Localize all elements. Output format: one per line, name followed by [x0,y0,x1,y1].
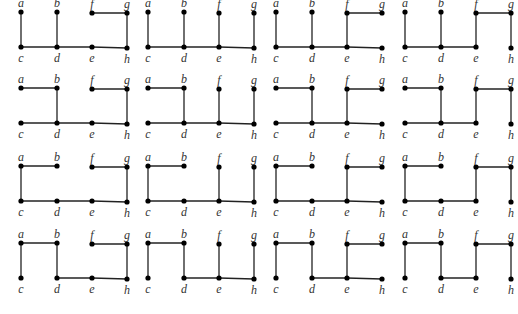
node-label-h: h [508,206,514,220]
edge-e-h [347,201,382,202]
node-c [18,198,23,203]
node-label-b: b [181,72,187,86]
node-label-d: d [438,282,445,296]
tree-panel: abcdefgh [273,0,385,66]
node-h [508,45,513,50]
node-e [89,44,94,49]
node-h [251,276,256,281]
node-a [273,240,278,245]
node-label-h: h [508,128,514,142]
node-d [54,44,59,49]
node-label-b: b [54,227,60,241]
node-label-c: c [145,51,151,65]
node-h [508,121,513,126]
node-label-h: h [251,283,257,297]
node-label-f: f [217,151,222,165]
node-label-f: f [90,228,95,242]
node-label-c: c [273,51,279,65]
edge-e-h [219,123,254,124]
node-label-b: b [54,150,60,164]
node-d [309,120,314,125]
node-label-e: e [216,205,222,219]
node-label-a: a [273,72,279,86]
node-e [216,44,221,49]
tree-panel: abcdefgh [18,72,130,142]
node-label-a: a [402,150,408,164]
edge-e-h [219,47,254,48]
node-label-g: g [251,228,257,242]
node-d [54,120,59,125]
node-e [344,198,349,203]
node-label-a: a [18,72,24,86]
node-label-e: e [473,127,479,141]
node-b [309,9,314,14]
node-e [344,44,349,49]
node-a [145,85,150,90]
node-c [18,275,23,280]
node-label-e: e [473,282,479,296]
node-d [309,275,314,280]
node-label-f: f [474,0,479,11]
node-label-f: f [90,0,95,11]
node-f [344,164,349,169]
node-d [309,198,314,203]
node-h [124,45,129,50]
node-label-b: b [438,227,444,241]
node-label-c: c [145,127,151,141]
node-label-c: c [402,127,408,141]
node-b [54,240,59,245]
node-b [438,163,443,168]
node-e [216,120,221,125]
edge-e-h [92,278,127,279]
node-c [273,120,278,125]
node-label-c: c [402,282,408,296]
node-f [344,86,349,91]
node-e [89,120,94,125]
node-label-d: d [438,127,445,141]
node-label-f: f [345,0,350,11]
node-g [251,10,256,15]
node-label-h: h [379,52,385,66]
node-label-b: b [181,0,187,10]
node-f [216,164,221,169]
node-a [402,85,407,90]
node-label-h: h [124,52,130,66]
node-b [54,163,59,168]
node-label-g: g [508,0,514,11]
node-b [309,163,314,168]
node-d [181,275,186,280]
node-h [379,199,384,204]
node-e [473,275,478,280]
node-label-d: d [181,127,188,141]
edge-e-h [92,123,127,124]
node-g [508,164,513,169]
node-f [473,86,478,91]
node-label-c: c [273,282,279,296]
node-label-f: f [90,151,95,165]
node-h [379,45,384,50]
node-label-g: g [251,0,257,11]
node-label-c: c [402,51,408,65]
node-label-g: g [124,73,130,87]
node-label-f: f [474,73,479,87]
node-f [473,164,478,169]
node-b [181,240,186,245]
node-g [508,10,513,15]
node-label-b: b [181,227,187,241]
node-label-b: b [309,0,315,10]
node-b [309,240,314,245]
node-c [273,275,278,280]
node-e [344,275,349,280]
node-f [216,86,221,91]
node-label-d: d [181,205,188,219]
node-label-e: e [344,205,350,219]
node-f [216,10,221,15]
node-c [18,120,23,125]
node-f [89,241,94,246]
node-label-e: e [344,51,350,65]
node-label-d: d [54,205,61,219]
node-a [145,163,150,168]
node-f [344,10,349,15]
node-label-a: a [18,0,24,10]
node-b [438,85,443,90]
